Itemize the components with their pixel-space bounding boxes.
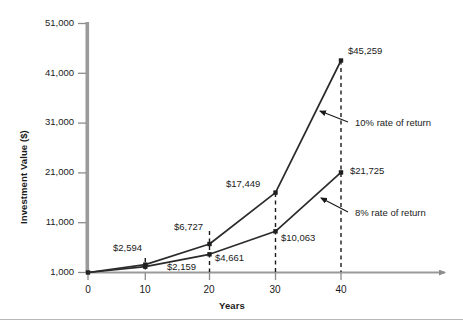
y-tick-label-41000: 41,000 (22, 68, 74, 78)
annotation-arrow-8-percent (321, 198, 348, 212)
y-tick-label-1000: 1,000 (22, 267, 74, 277)
y-tick-label-11000: 11,000 (22, 217, 74, 227)
x-axis-title: Years (200, 301, 264, 311)
y-tick-label-31000: 31,000 (22, 117, 74, 127)
data-label-10pct-year40: $45,259 (348, 46, 382, 56)
y-tick-label-21000: 21,000 (22, 167, 74, 177)
y-axis-ticks (78, 24, 86, 273)
y-axis-title: Investment Value ($) (19, 130, 29, 224)
annotation-10-percent-rate: 10% rate of return (355, 118, 431, 128)
x-tick-label-30: 30 (255, 285, 295, 295)
bottom-divider (0, 319, 463, 320)
x-tick-label-10: 10 (125, 285, 165, 295)
x-tick-label-20: 20 (189, 285, 229, 295)
x-tick-label-40: 40 (321, 285, 361, 295)
data-label-8pct-year20: $4,661 (215, 253, 244, 263)
data-label-8pct-year10: $2,159 (167, 262, 196, 272)
y-tick-label-51000: 51,000 (22, 18, 74, 28)
investment-growth-chart: 51,000 41,000 31,000 21,000 11,000 1,000… (0, 0, 463, 329)
data-label-8pct-year40: $21,725 (350, 166, 384, 176)
annotation-arrow-10-percent (320, 111, 348, 122)
x-axis-ticks (88, 273, 341, 281)
data-label-10pct-year20: $6,727 (174, 222, 203, 232)
data-label-10pct-year30: $17,449 (226, 179, 260, 189)
x-tick-label-0: 0 (68, 285, 108, 295)
annotation-8-percent-rate: 8% rate of return (355, 208, 426, 218)
data-label-10pct-year10: $2,594 (113, 243, 142, 253)
chart-plot-area (0, 0, 463, 329)
y-axis-line (86, 22, 90, 272)
data-label-8pct-year30: $10,063 (281, 233, 315, 243)
